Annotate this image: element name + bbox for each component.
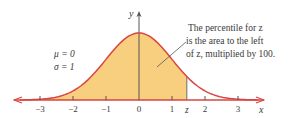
sigma-label: σ = 1 xyxy=(54,62,75,72)
normal-curve-diagram: −3−2−10123 z x y μ = 0 σ = 1 The percent… xyxy=(0,0,304,118)
x-tick-label: 0 xyxy=(137,104,142,114)
x-tick-label: −2 xyxy=(68,104,78,114)
z-label: z xyxy=(184,105,189,115)
y-axis-label: y xyxy=(128,8,134,19)
x-tick-label: 2 xyxy=(203,104,208,114)
mu-label: μ = 0 xyxy=(53,49,75,59)
x-tick-label: −1 xyxy=(101,104,111,114)
x-axis-label: x xyxy=(258,104,264,115)
annotation-line-3: of z, multiplied by 100. xyxy=(186,49,275,59)
x-tick-label: 1 xyxy=(170,104,175,114)
x-axis-tick-labels: −3−2−10123 xyxy=(35,104,241,114)
annotation-line-1: The percentile for z xyxy=(188,23,263,33)
x-tick-label: −3 xyxy=(35,104,45,114)
annotation-line-2: is the area to the left xyxy=(186,36,264,46)
x-tick-label: 3 xyxy=(236,104,241,114)
